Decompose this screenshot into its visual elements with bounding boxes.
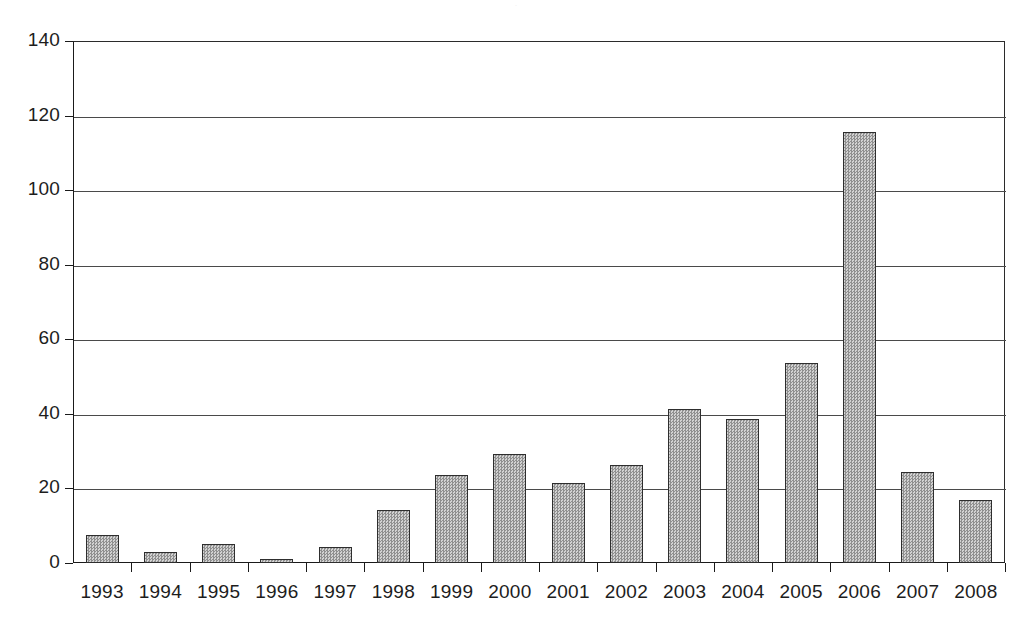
bar-2006 [843,132,876,563]
x-tick-3 [248,563,249,572]
bar-1994 [144,552,177,563]
y-axis-label-60: 60 [4,327,60,349]
x-tick-5 [364,563,365,572]
bar-2001 [552,483,585,563]
x-tick-11 [714,563,715,572]
x-tick-10 [656,563,657,572]
x-tick-12 [772,563,773,572]
bars-layer [73,41,1005,563]
bar-2000 [493,454,526,563]
y-axis-label-20: 20 [4,476,60,498]
y-tick-120 [65,116,73,117]
bar-2004 [726,419,759,563]
x-tick-6 [423,563,424,572]
x-tick-8 [539,563,540,572]
y-tick-40 [65,414,73,415]
x-tick-7 [481,563,482,572]
x-tick-14 [889,563,890,572]
x-axis-label-1994: 1994 [131,581,189,603]
y-axis-label-80: 80 [4,253,60,275]
x-axis-label-2000: 2000 [481,581,539,603]
bar-1999 [435,475,468,563]
y-tick-60 [65,339,73,340]
x-tick-1 [131,563,132,572]
x-axis-label-1999: 1999 [423,581,481,603]
y-axis-label-0: 0 [4,551,60,573]
x-axis-label-1993: 1993 [73,581,131,603]
y-tick-80 [65,265,73,266]
x-axis-label-1998: 1998 [364,581,422,603]
x-axis-label-2004: 2004 [714,581,772,603]
y-tick-20 [65,488,73,489]
x-axis-label-1997: 1997 [306,581,364,603]
x-tick-15 [947,563,948,572]
bar-2003 [668,409,701,563]
x-tick-end [1005,563,1006,572]
bar-2005 [785,363,818,563]
x-axis-label-2005: 2005 [772,581,830,603]
y-axis-label-140: 140 [4,29,60,51]
bar-2002 [610,465,643,563]
x-tick-4 [306,563,307,572]
x-tick-13 [830,563,831,572]
bar-1993 [86,535,119,563]
x-axis-label-2008: 2008 [947,581,1005,603]
x-tick-2 [190,563,191,572]
x-axis-label-2006: 2006 [830,581,888,603]
bar-1995 [202,544,235,563]
x-axis-label-1995: 1995 [190,581,248,603]
bar-1996 [260,559,293,563]
bar-2008 [959,500,992,563]
x-axis-label-2001: 2001 [539,581,597,603]
x-axis-label-1996: 1996 [248,581,306,603]
x-axis-label-2007: 2007 [889,581,947,603]
bar-chart: · 020406080100120140 1993199419951996199… [0,0,1032,637]
y-axis-label-120: 120 [4,104,60,126]
y-tick-140 [65,41,73,42]
x-axis-label-2002: 2002 [597,581,655,603]
cropped-title-remnant: · [0,0,1032,10]
bar-1997 [319,547,352,563]
bar-1998 [377,510,410,563]
x-tick-9 [597,563,598,572]
y-tick-0 [65,563,73,564]
y-axis-label-100: 100 [4,178,60,200]
y-tick-100 [65,190,73,191]
bar-2007 [901,472,934,563]
x-axis-label-2003: 2003 [656,581,714,603]
y-axis-label-40: 40 [4,402,60,424]
